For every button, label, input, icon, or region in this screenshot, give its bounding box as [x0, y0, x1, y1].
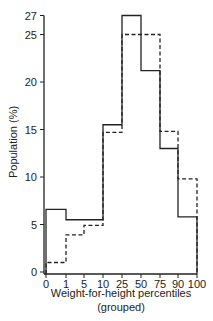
y-axis-label: Population (%)	[7, 106, 19, 178]
x-axis-label-line2: (grouped)	[97, 301, 145, 313]
y-tick-label: 10	[25, 171, 37, 183]
y-tick-label: 20	[25, 76, 37, 88]
y-tick-label: 15	[25, 124, 37, 136]
series	[46, 16, 197, 275]
y-tick-label: 27	[25, 10, 37, 22]
y-tick-label: 5	[31, 219, 37, 231]
y-tick-label: 0	[31, 266, 37, 278]
dashed-series-line	[46, 35, 197, 275]
histogram-chart: 0510152025270151025507590100 Population …	[0, 0, 213, 321]
y-tick-label: 25	[25, 29, 37, 41]
x-tick-label: 0	[43, 278, 49, 290]
x-axis-label: Weight-for-height percentiles	[51, 287, 192, 299]
axes: 0510152025270151025507590100	[25, 10, 206, 291]
